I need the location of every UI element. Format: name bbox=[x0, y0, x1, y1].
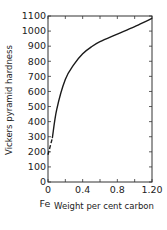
dashed-extrapolation-line bbox=[48, 138, 52, 155]
x-tick-label: 0 bbox=[45, 184, 51, 195]
hardness-curve bbox=[52, 18, 152, 138]
hardness-chart: 010020030040050060070080090010001100 00.… bbox=[0, 0, 167, 230]
x-origin-label-fe: Fe bbox=[40, 198, 51, 209]
y-tick-label: 600 bbox=[28, 86, 46, 97]
plot-border bbox=[48, 16, 152, 182]
y-tick-label: 700 bbox=[28, 71, 46, 82]
x-axis-ticks: 00.40.81.20 bbox=[45, 16, 163, 195]
y-tick-label: 100 bbox=[28, 161, 46, 172]
y-axis-ticks: 010020030040050060070080090010001100 bbox=[22, 10, 152, 187]
y-tick-label: 900 bbox=[28, 40, 46, 51]
x-tick-label: 0.4 bbox=[75, 184, 90, 195]
y-tick-label: 300 bbox=[28, 131, 46, 142]
y-tick-label: 500 bbox=[28, 101, 46, 112]
y-tick-label: 200 bbox=[28, 146, 46, 157]
y-tick-label: 400 bbox=[28, 116, 46, 127]
y-axis-title: Vickers pyramid hardness bbox=[4, 45, 14, 155]
plot-frame bbox=[48, 16, 152, 182]
x-tick-label: 1.20 bbox=[141, 184, 162, 195]
y-tick-label: 1000 bbox=[22, 25, 46, 36]
x-tick-label: 0.8 bbox=[110, 184, 125, 195]
data-series bbox=[48, 18, 152, 155]
y-tick-label: 800 bbox=[28, 56, 46, 67]
y-tick-label: 1100 bbox=[22, 10, 46, 21]
x-axis-title: Weight per cent carbon bbox=[54, 201, 154, 211]
